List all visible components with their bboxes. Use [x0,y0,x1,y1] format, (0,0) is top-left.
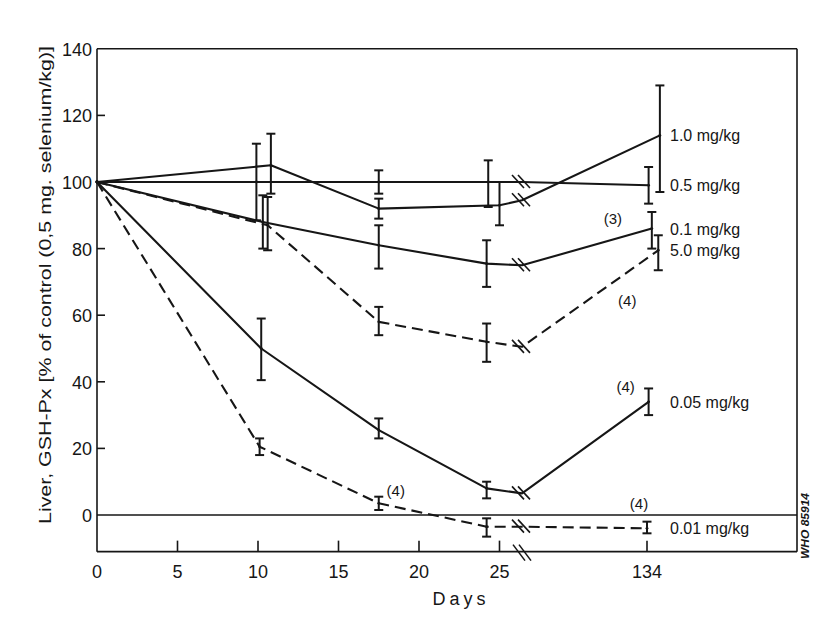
series-label: 5.0 mg/kg [670,242,740,259]
series-label: 0.05 mg/kg [670,394,749,411]
error-bar [482,324,491,362]
series-label: 0.5 mg/kg [670,177,740,194]
axis-break-slash [519,545,531,561]
error-bar [655,85,664,192]
figure-code: WHO 85914 [799,493,811,559]
y-tick-label: 20 [72,439,92,459]
plot-frame [97,49,797,552]
error-bar [255,438,264,455]
series-0-5-mg-kg: 0.5 mg/kg [96,144,741,221]
x-tick-label: 15 [328,562,348,582]
sample-size-annotation: (4) [630,495,648,512]
sample-size-annotation: (4) [618,292,636,309]
error-bar [266,134,275,194]
x-tick-label: 25 [489,562,509,582]
sample-size-annotation: (3) [604,210,622,227]
error-bar [374,225,383,268]
y-tick-label: 120 [62,106,92,126]
error-bar [482,518,491,536]
series-label: 0.1 mg/kg [670,221,740,238]
error-bar [643,522,652,534]
sample-size-annotation: (4) [387,482,405,499]
x-axis-title: Days [432,589,489,609]
x-tick-label: 10 [248,562,268,582]
x-axis-break-mark [513,545,531,561]
series-line [97,182,649,185]
data-point [96,181,99,184]
y-tick-label: 0 [82,506,92,526]
series-label: 0.01 mg/kg [670,520,749,537]
x-tick-label: 0 [92,562,102,582]
y-tick-label: 60 [72,306,92,326]
x-tick-label: 20 [409,562,429,582]
chart-svg: 0204060801001201400510152025134DaysLiver… [0,0,837,632]
error-bar [484,160,493,207]
x-tick-label: 134 [632,562,662,582]
x-tick-label: 5 [172,562,182,582]
series-line [97,182,647,528]
y-tick-label: 100 [62,173,92,193]
series-label: 1.0 mg/kg [670,127,740,144]
error-bar [257,319,266,381]
axis-break-slash [513,545,525,561]
sample-size-annotation: (4) [616,378,634,395]
y-axis-title: Liver, GSH-Px [% of control (0,5 mg. sel… [36,46,55,524]
y-tick-label: 140 [62,40,92,60]
series-line [97,182,649,493]
series-0-1-mg-kg: 0.1 mg/kg [96,181,741,287]
error-bar [374,307,383,335]
y-tick-label: 40 [72,373,92,393]
error-bar [482,482,491,499]
y-tick-label: 80 [72,240,92,260]
error-bar [644,388,653,415]
